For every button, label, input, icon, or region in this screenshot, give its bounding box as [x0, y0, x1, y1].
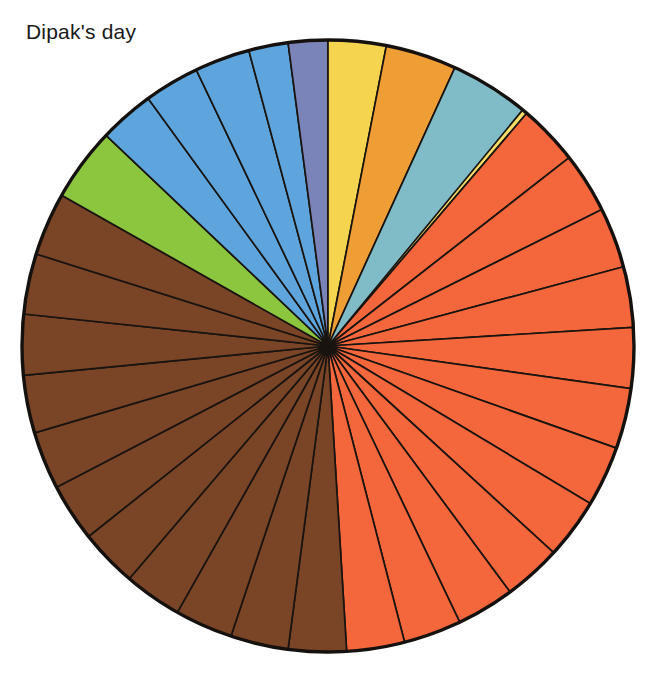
- page-title: Dipak's day: [26, 20, 136, 44]
- chart-page: Dipak's day: [0, 0, 645, 689]
- pie-chart: [0, 0, 645, 689]
- pie-slice-group: [22, 40, 634, 652]
- pie-chart-svg: [0, 0, 645, 689]
